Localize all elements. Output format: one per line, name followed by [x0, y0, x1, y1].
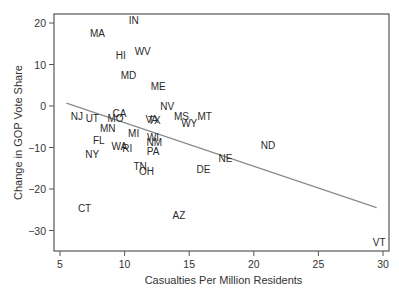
x-axis-title: Casualties Per Million Residents [145, 274, 303, 286]
y-tick-label: 20 [34, 17, 46, 29]
point-label-ut: UT [86, 113, 99, 124]
point-label-md: MD [121, 70, 137, 81]
y-tick-label: 0 [40, 100, 46, 112]
x-tick-label: 5 [57, 258, 63, 270]
y-tick-label: −20 [28, 183, 46, 195]
x-tick-label: 20 [248, 258, 260, 270]
point-label-de: DE [196, 164, 210, 175]
y-tick-label: 10 [34, 59, 46, 71]
point-label-oh: OH [139, 166, 154, 177]
point-label-nj: NJ [71, 111, 83, 122]
y-tick-label: −30 [28, 225, 46, 237]
point-label-hi: HI [116, 50, 126, 61]
point-label-mn: MN [100, 123, 116, 134]
plot-area: INMAHIWVMDMENVCAMONJUTVATXMSWYMTMNMIWINM… [54, 14, 389, 251]
point-label-me: ME [151, 81, 166, 92]
point-label-pa: PA [147, 146, 160, 157]
point-label-tx: TX [148, 115, 161, 126]
point-label-mt: MT [197, 111, 211, 122]
point-label-wv: WV [135, 46, 151, 57]
point-label-nd: ND [261, 140, 275, 151]
point-label-mi: MI [128, 128, 139, 139]
x-tick-label: 25 [313, 258, 325, 270]
data-labels: INMAHIWVMDMENVCAMONJUTVATXMSWYMTMNMIWINM… [71, 15, 386, 248]
point-label-ny: NY [85, 149, 99, 160]
point-label-ct: CT [78, 203, 91, 214]
point-label-az: AZ [172, 210, 185, 221]
point-label-mo: MO [108, 113, 124, 124]
point-label-ma: MA [90, 28, 105, 39]
point-label-ri: RI [122, 143, 132, 154]
point-label-wy: WY [181, 118, 197, 129]
point-label-ne: NE [218, 153, 232, 164]
y-axis-title: Change in GOP Vote Share [12, 65, 24, 200]
point-label-in: IN [129, 15, 139, 26]
x-tick-label: 15 [183, 258, 195, 270]
point-label-nv: NV [160, 101, 174, 112]
point-label-fl: FL [93, 135, 105, 146]
x-tick-label: 10 [119, 258, 131, 270]
point-label-vt: VT [373, 237, 386, 248]
x-axis: 51015202530 [57, 251, 389, 270]
y-tick-label: −10 [28, 142, 46, 154]
scatter-chart: INMAHIWVMDMENVCAMONJUTVATXMSWYMTMNMIWINM… [0, 0, 399, 297]
y-axis: 20100−10−20−30 [28, 17, 54, 237]
x-tick-label: 30 [377, 258, 389, 270]
